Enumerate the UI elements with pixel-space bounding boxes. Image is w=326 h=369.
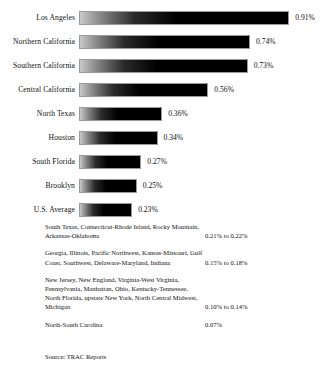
annotation-value: 0.15% to 0.18% xyxy=(205,258,325,267)
bar-value-label: 0.74% xyxy=(256,34,276,50)
annotation-regions: New Jersey, New England, Virginia-West V… xyxy=(45,275,203,312)
source-caption: Source: TRAC Reports xyxy=(45,352,106,361)
bar xyxy=(79,179,137,193)
bar-category-label: Brooklyn xyxy=(0,178,75,194)
bar-value-label: 0.27% xyxy=(147,154,167,170)
annotation-row: Georgia, Illinois, Pacific Northwest, Ka… xyxy=(0,248,326,266)
bar-row: U.S. Average0.23% xyxy=(0,202,326,218)
bar-value-label: 0.36% xyxy=(168,106,188,122)
bar-category-label: Los Angeles xyxy=(0,10,75,26)
bar xyxy=(79,155,141,169)
annotation-regions: Georgia, Illinois, Pacific Northwest, Ka… xyxy=(45,248,203,266)
bar-fill xyxy=(79,107,162,121)
bar-fill xyxy=(79,35,250,49)
annotation-row: New Jersey, New England, Virginia-West V… xyxy=(0,275,326,312)
bar-row: Los Angeles0.91% xyxy=(0,10,326,26)
annotation-value: 0.07% xyxy=(205,320,325,329)
bar-chart: Los Angeles0.91%Northern California0.74%… xyxy=(0,0,326,218)
bar-fill xyxy=(79,11,289,25)
bar-row: South Florida0.27% xyxy=(0,154,326,170)
bar-row: Brooklyn0.25% xyxy=(0,178,326,194)
bar xyxy=(79,83,208,97)
bar xyxy=(79,131,158,145)
annotation-row: South Texas, Connecticut-Rhode Island, R… xyxy=(0,222,326,240)
bar-row: Northern California0.74% xyxy=(0,34,326,50)
bar-fill xyxy=(79,83,208,97)
bar-category-label: Northern California xyxy=(0,34,75,50)
annotation-row: North-South Carolina0.07% xyxy=(0,320,326,329)
annotation-value: 0.10% to 0.14% xyxy=(205,302,325,311)
bar-value-label: 0.25% xyxy=(143,178,163,194)
bar-value-label: 0.91% xyxy=(295,10,315,26)
bar-category-label: Houston xyxy=(0,130,75,146)
chart-annotations: South Texas, Connecticut-Rhode Island, R… xyxy=(0,222,326,337)
bar-fill xyxy=(79,179,137,193)
annotation-regions: North-South Carolina xyxy=(45,320,203,329)
bar xyxy=(79,35,250,49)
bar-category-label: U.S. Average xyxy=(0,202,75,218)
bar-fill xyxy=(79,155,141,169)
bar-row: Houston0.34% xyxy=(0,130,326,146)
bar-fill xyxy=(79,131,158,145)
annotation-regions: South Texas, Connecticut-Rhode Island, R… xyxy=(45,222,203,240)
bar-category-label: North Texas xyxy=(0,106,75,122)
bar-value-label: 0.73% xyxy=(254,58,274,74)
bar xyxy=(79,203,132,217)
bar-fill xyxy=(79,59,248,73)
bar-row: Southern California0.73% xyxy=(0,58,326,74)
bar xyxy=(79,11,289,25)
bar-row: North Texas0.36% xyxy=(0,106,326,122)
bar-value-label: 0.34% xyxy=(164,130,184,146)
bar-category-label: Central California xyxy=(0,82,75,98)
bar-category-label: Southern California xyxy=(0,58,75,74)
bar-row: Central California0.56% xyxy=(0,82,326,98)
bar-value-label: 0.23% xyxy=(138,202,158,218)
bar-value-label: 0.56% xyxy=(214,82,234,98)
bar xyxy=(79,107,162,121)
bar-fill xyxy=(79,203,132,217)
bar xyxy=(79,59,248,73)
bar-category-label: South Florida xyxy=(0,154,75,170)
annotation-value: 0.21% to 0.22% xyxy=(205,231,325,240)
